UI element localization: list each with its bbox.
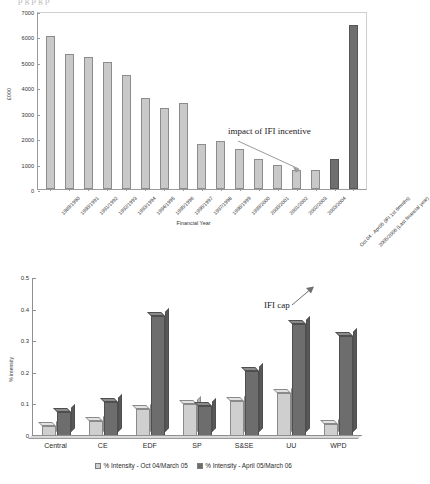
top-chart-x-tick-mark xyxy=(278,189,279,191)
top-chart-bar-slot xyxy=(325,13,344,189)
top-chart-bar xyxy=(103,62,112,189)
top-chart-annotation-label: impact of IFI incentive xyxy=(228,126,311,136)
bottom-chart-bar-face xyxy=(230,401,244,436)
bottom-chart-bar-face xyxy=(104,402,118,436)
top-chart-bar xyxy=(330,159,339,190)
top-chart-y-tick: 6000 xyxy=(22,35,38,41)
legend-label: % Intensity - Oct 04/March 05 xyxy=(104,462,188,469)
top-chart-bar-slot xyxy=(211,13,230,189)
top-chart-bar xyxy=(349,25,358,189)
top-chart-bar xyxy=(141,98,150,189)
bottom-chart-bar-face xyxy=(151,316,165,436)
bottom-chart-bar-top xyxy=(288,320,306,324)
top-chart-x-tick-mark xyxy=(202,189,203,191)
top-chart-bar-slot xyxy=(136,13,155,189)
bottom-chart-bar-face xyxy=(198,406,212,436)
bottom-chart-bar-side xyxy=(71,404,75,432)
bottom-chart-bar-side xyxy=(353,328,357,432)
top-chart-y-tick: 7000 xyxy=(22,10,38,16)
top-chart-x-label: 2002/2003 xyxy=(307,195,328,216)
bottom-chart-bar xyxy=(230,401,244,436)
top-chart-x-label: 1995/1996 xyxy=(174,195,195,216)
bottom-chart-bar-top xyxy=(226,397,244,401)
top-chart-x-tick-mark xyxy=(145,189,146,191)
top-chart-bar-slot xyxy=(249,13,268,189)
bottom-chart-y-tick: 0.1 xyxy=(21,401,33,407)
top-chart-x-tick-mark xyxy=(353,189,354,191)
bottom-chart-bar-top xyxy=(38,422,56,426)
bottom-chart-bar-face xyxy=(89,421,103,436)
top-chart-x-tick-mark xyxy=(221,189,222,191)
top-chart-x-tick-mark xyxy=(69,189,70,191)
bottom-chart-bar xyxy=(151,316,165,436)
bottom-chart-bar xyxy=(292,324,306,436)
top-chart-bar xyxy=(197,144,206,189)
bottom-chart-bar xyxy=(245,371,259,436)
bottom-chart-bar-top xyxy=(100,398,118,402)
bottom-chart-bar-side xyxy=(165,308,169,432)
bottom-chart-bar-top xyxy=(85,417,103,421)
bottom-chart-bar-face xyxy=(183,404,197,436)
bottom-chart-bar xyxy=(183,404,197,436)
top-chart-y-tick: 4000 xyxy=(22,86,38,92)
cut-off-text-strip: p g p g p xyxy=(0,0,387,8)
top-chart-x-label: 1993/1994 xyxy=(136,195,157,216)
top-chart-x-label: 2001/2002 xyxy=(288,195,309,216)
top-chart-x-axis-title: Financial Year xyxy=(0,220,387,226)
top-bar-chart: £000 70006000500040003000200010000 1989/… xyxy=(0,8,387,258)
top-chart-bar-slot xyxy=(268,13,287,189)
top-chart-plot-area: 70006000500040003000200010000 xyxy=(37,12,367,190)
bottom-chart-group xyxy=(221,278,268,436)
legend-swatch xyxy=(197,463,203,469)
bottom-chart-x-label: UU xyxy=(268,442,315,456)
bottom-chart-bar xyxy=(89,421,103,436)
top-chart-x-tick-mark xyxy=(259,189,260,191)
bottom-chart-bar xyxy=(339,336,353,436)
top-chart-y-tick: 3000 xyxy=(22,112,38,118)
top-chart-y-tick: 1000 xyxy=(22,163,38,169)
bottom-chart-bar-top xyxy=(241,367,259,371)
bottom-chart-bar-face xyxy=(277,393,291,436)
bottom-chart-plot-area: 0.50.40.30.20.10 xyxy=(32,278,362,436)
bottom-chart-bar xyxy=(104,402,118,436)
top-chart-bar xyxy=(84,57,93,189)
top-chart-bar xyxy=(254,159,263,189)
bottom-chart-axis-floor xyxy=(32,435,365,439)
top-chart-bar xyxy=(311,170,320,189)
bottom-chart-y-tick: 0.4 xyxy=(21,307,33,313)
top-chart-bar xyxy=(292,170,301,189)
bottom-chart-bar-groups xyxy=(33,278,362,436)
top-chart-y-tick: 5000 xyxy=(22,61,38,67)
bottom-chart-group xyxy=(127,278,174,436)
bottom-chart-y-tick: 0.5 xyxy=(21,275,33,281)
top-chart-x-label: 1996/1997 xyxy=(193,195,214,216)
top-chart-bar-slot xyxy=(60,13,79,189)
top-chart-bar xyxy=(122,75,131,189)
top-chart-x-tick-mark xyxy=(316,189,317,191)
bottom-chart-x-label: EDF xyxy=(126,442,173,456)
top-chart-x-label: 1992/1993 xyxy=(117,195,138,216)
bottom-chart-bar-top xyxy=(132,405,150,409)
top-chart-bar-slot xyxy=(79,13,98,189)
bottom-chart-bar-side xyxy=(259,363,263,432)
top-chart-x-tick-mark xyxy=(164,189,165,191)
top-chart-x-label: 2000/2001 xyxy=(269,195,290,216)
top-chart-x-tick-mark xyxy=(107,189,108,191)
bottom-chart-legend-item: % Intensity - April 05/March 06 xyxy=(197,462,292,469)
top-chart-bar-slot xyxy=(230,13,249,189)
bottom-chart-y-tick: 0.3 xyxy=(21,338,33,344)
bottom-chart-x-tick-labels: CentralCEEDFSPS&SEUUWPD xyxy=(32,442,362,456)
bottom-chart-baseline xyxy=(32,435,362,436)
bottom-chart-bar-top xyxy=(147,312,165,316)
bottom-chart-legend: % Intensity - Oct 04/March 05% Intensity… xyxy=(0,462,387,469)
top-chart-x-tick-mark xyxy=(240,189,241,191)
top-chart-bar xyxy=(179,103,188,189)
top-chart-x-label: 1998/1999 xyxy=(231,195,252,216)
top-chart-x-tick-mark xyxy=(183,189,184,191)
top-chart-bar xyxy=(46,36,55,189)
bottom-chart-bar-side xyxy=(118,394,122,432)
bottom-chart-group xyxy=(80,278,127,436)
bottom-chart-bar-face xyxy=(245,371,259,436)
top-chart-x-tick-mark xyxy=(335,189,336,191)
